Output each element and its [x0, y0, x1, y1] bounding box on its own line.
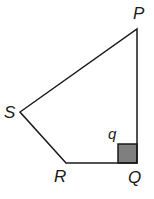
right-angle-marker: [118, 144, 137, 163]
vertex-label-s: S: [4, 103, 16, 122]
vertex-label-p: P: [133, 4, 145, 23]
quadrilateral-diagram: P S R Q q: [0, 0, 154, 199]
angle-label-q: q: [108, 125, 117, 142]
vertex-label-q: Q: [128, 168, 141, 187]
vertex-label-r: R: [54, 167, 66, 186]
quadrilateral-pqrs: [20, 29, 137, 163]
